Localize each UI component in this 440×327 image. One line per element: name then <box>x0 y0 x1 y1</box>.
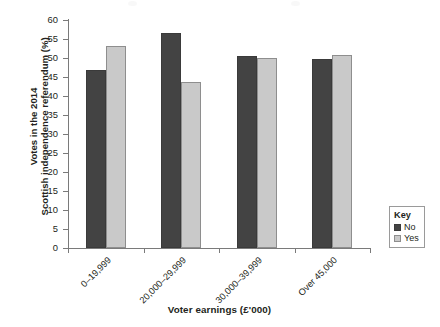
x-axis-tick-label: 0–19,999 <box>21 255 113 327</box>
y-axis-tick-label-text: 5 <box>18 224 58 233</box>
y-axis-tick-label: 25 <box>18 148 58 158</box>
y-axis-tick-label: 55 <box>18 34 58 44</box>
x-axis-tick <box>144 248 145 253</box>
legend-item-no: No <box>394 222 419 232</box>
x-axis-tick <box>295 248 296 253</box>
y-axis-tick-label: 35 <box>18 110 58 120</box>
bar-no-2 <box>161 33 181 248</box>
y-axis-tick-label-text: 25 <box>18 148 58 157</box>
bar-yes-2 <box>181 82 201 248</box>
y-axis-tick-label: 40 <box>18 91 58 101</box>
y-axis-tick-label: 15 <box>18 186 58 196</box>
legend-entries: NoYes <box>394 222 419 243</box>
y-axis-tick-label: 10 <box>18 205 58 215</box>
legend: Key NoYes <box>389 206 425 248</box>
y-axis-tick-label: 0 <box>18 243 58 253</box>
legend-title: Key <box>394 210 419 221</box>
y-axis-tick-label-text: 15 <box>18 186 58 195</box>
scan-artifact <box>128 1 137 6</box>
bar-chart-figure: Votes in the 2014 Scottish independence … <box>0 0 440 327</box>
legend-swatch-no-icon <box>394 224 401 231</box>
y-axis-tick-label-text: 0 <box>18 243 58 252</box>
y-axis-tick-label: 45 <box>18 72 58 82</box>
y-axis-tick-label: 30 <box>18 129 58 139</box>
x-axis-tick-label: 20,000–29,999 <box>96 255 188 327</box>
x-axis-tick <box>68 248 69 253</box>
y-axis-tick-label-text: 60 <box>18 15 58 24</box>
bar-yes-4 <box>332 55 352 248</box>
y-axis-tick-label-text: 35 <box>18 110 58 119</box>
bar-no-1 <box>86 70 106 248</box>
y-axis-tick-label: 60 <box>18 15 58 25</box>
legend-swatch-yes-icon <box>394 235 401 242</box>
x-axis-tick-label: 30,000–39,999 <box>172 255 264 327</box>
x-axis-title: Voter earnings (£'000) <box>68 304 371 315</box>
y-axis-tick-label-text: 45 <box>18 72 58 81</box>
y-axis-tick-label-text: 40 <box>18 91 58 100</box>
scan-artifact <box>291 1 300 6</box>
bar-no-4 <box>312 59 332 248</box>
x-axis-tick <box>219 248 220 253</box>
y-axis-tick-label: 50 <box>18 53 58 63</box>
y-axis-tick-label-text: 20 <box>18 167 58 176</box>
x-axis-tick <box>370 248 371 253</box>
y-axis-tick-label-text: 10 <box>18 205 58 214</box>
legend-item-yes: Yes <box>394 233 419 243</box>
y-axis-tick-label-text: 55 <box>18 34 58 43</box>
legend-label-yes: Yes <box>404 233 419 243</box>
bar-yes-3 <box>257 58 277 248</box>
y-axis-tick-label: 20 <box>18 167 58 177</box>
legend-label-no: No <box>404 222 416 232</box>
plot-area <box>68 20 370 248</box>
y-axis-tick-label-text: 50 <box>18 53 58 62</box>
y-axis-tick-label-text: 30 <box>18 129 58 138</box>
x-axis-tick-label: Over 45,000 <box>247 255 339 327</box>
y-axis-tick-label: 5 <box>18 224 58 234</box>
bar-yes-1 <box>106 46 126 248</box>
bar-no-3 <box>237 56 257 248</box>
